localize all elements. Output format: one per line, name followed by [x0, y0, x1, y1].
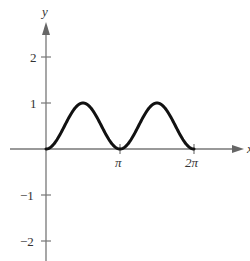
y-axis-arrow-icon	[42, 22, 50, 35]
sin-squared-curve	[46, 103, 194, 149]
x-tick-label: 2π	[185, 155, 199, 170]
x-axis-arrow-icon	[232, 145, 244, 153]
y-tick-label: −2	[20, 234, 34, 249]
chart-plot: x y 2 1 −1 −2 π 2π	[0, 0, 250, 261]
y-tick-label: 1	[30, 96, 37, 111]
y-tick-label: 2	[30, 50, 37, 65]
x-axis-label: x	[246, 141, 250, 156]
x-ticks: π 2π	[115, 144, 199, 170]
y-axis-label: y	[40, 4, 48, 19]
x-tick-label: π	[115, 155, 122, 170]
y-tick-label: −1	[20, 188, 34, 203]
